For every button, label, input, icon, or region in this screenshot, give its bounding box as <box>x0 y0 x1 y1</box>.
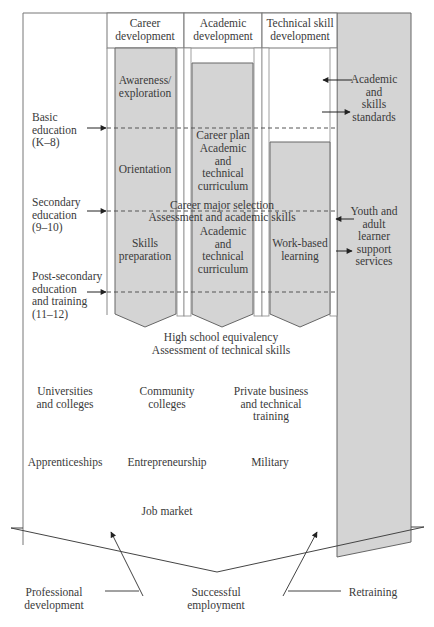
curr-b-line4: curriculum <box>198 263 248 276</box>
awareness-line1: Awareness/ <box>119 74 172 87</box>
curr-a-line3: technical <box>198 167 248 180</box>
successful-line2: employment <box>187 599 245 612</box>
retraining: Retraining <box>349 586 398 599</box>
universities-line1: Universities <box>36 385 93 398</box>
career-pathway-diagram: Career development Academic development … <box>0 0 434 627</box>
header-academic-line2: development <box>193 30 252 43</box>
header-academic: Academic development <box>193 17 252 43</box>
support-line1: Youth and <box>350 205 397 218</box>
header-technical-line1: Technical skill <box>266 17 333 30</box>
private-line1: Private business <box>234 385 308 398</box>
technical-column-arrow <box>270 142 330 327</box>
professional-line1: Professional <box>24 586 83 599</box>
academic-technical-curriculum-2: Academic and technical curriculum <box>198 225 248 275</box>
skills-line1: Skills <box>119 237 171 250</box>
skills-preparation: Skills preparation <box>119 237 171 262</box>
professional-development: Professional development <box>24 586 83 611</box>
stage-basic-education: Basic education (K–8) <box>32 111 77 149</box>
standards-line4: standards <box>351 111 398 124</box>
assessment-technical-text: Assessment of technical skills <box>152 344 290 357</box>
private-line2: and technical <box>234 398 308 411</box>
stage-secondary-line2: education <box>32 209 81 222</box>
stage-basic-line3: (K–8) <box>32 136 77 149</box>
header-career-line2: development <box>115 30 174 43</box>
support-line2: adult <box>350 218 397 231</box>
header-career: Career development <box>115 17 174 43</box>
header-technical-line2: development <box>266 30 333 43</box>
youth-adult-learner-support: Youth and adult learner support services <box>350 205 397 268</box>
career-major-selection: Career major selection <box>170 199 274 212</box>
arrow-professional-development <box>111 532 143 596</box>
stage-post-line4: (11–12) <box>32 308 102 321</box>
work-based-line2: learning <box>272 250 327 263</box>
community-colleges: Community colleges <box>140 385 195 410</box>
support-line3: learner <box>350 230 397 243</box>
private-line3: training <box>234 410 308 423</box>
career-plan: Career plan <box>196 129 249 142</box>
skills-line2: preparation <box>119 250 171 263</box>
curr-b-line2: and <box>198 238 248 251</box>
community-line1: Community <box>140 385 195 398</box>
stage-post-line2: education <box>32 283 102 296</box>
header-academic-line1: Academic <box>193 17 252 30</box>
assessment-academic-skills: Assessment and academic skills <box>148 211 295 224</box>
v-left-edge <box>11 528 217 572</box>
apprenticeships: Apprenticeships <box>28 456 103 469</box>
support-line4: support <box>350 243 397 256</box>
curr-a-line4: curriculum <box>198 180 248 193</box>
curr-b-line3: technical <box>198 250 248 263</box>
hs-equivalency-text: High school equivalency <box>152 331 290 344</box>
stage-post-line1: Post-secondary <box>32 270 102 283</box>
universities-line2: and colleges <box>36 398 93 411</box>
header-career-line1: Career <box>115 17 174 30</box>
successful-employment: Successful employment <box>187 586 245 611</box>
work-based-learning: Work-based learning <box>272 237 327 262</box>
entrepreneurship: Entrepreneurship <box>127 456 206 469</box>
work-based-line1: Work-based <box>272 237 327 250</box>
stage-basic-line1: Basic <box>32 111 77 124</box>
academic-skills-standards: Academic and skills standards <box>351 73 398 123</box>
stage-secondary-education: Secondary education (9–10) <box>32 196 81 234</box>
support-line5: services <box>350 255 397 268</box>
awareness-exploration: Awareness/ exploration <box>119 74 172 99</box>
arrow-retraining <box>283 532 317 596</box>
standards-line1: Academic <box>351 73 398 86</box>
standards-line2: and <box>351 86 398 99</box>
job-market: Job market <box>142 505 193 518</box>
orientation: Orientation <box>119 163 171 176</box>
high-school-equivalency: High school equivalency Assessment of te… <box>152 331 290 356</box>
stage-secondary-line3: (9–10) <box>32 221 81 234</box>
curr-a-line1: Academic <box>198 142 248 155</box>
v-right-edge <box>217 527 424 572</box>
stage-basic-line2: education <box>32 124 77 137</box>
universities-and-colleges: Universities and colleges <box>36 385 93 410</box>
professional-line2: development <box>24 599 83 612</box>
curr-a-line2: and <box>198 155 248 168</box>
academic-column-arrow <box>192 63 253 327</box>
standards-line3: skills <box>351 98 398 111</box>
academic-technical-curriculum-1: Academic and technical curriculum <box>198 142 248 192</box>
stage-post-line3: and training <box>32 295 102 308</box>
successful-line1: Successful <box>187 586 245 599</box>
stage-secondary-line1: Secondary <box>32 196 81 209</box>
curr-b-line1: Academic <box>198 225 248 238</box>
military: Military <box>251 456 289 469</box>
private-business-technical-training: Private business and technical training <box>234 385 308 423</box>
stage-postsecondary-education: Post-secondary education and training (1… <box>32 270 102 320</box>
awareness-line2: exploration <box>119 87 172 100</box>
community-line2: colleges <box>140 398 195 411</box>
header-technical: Technical skill development <box>266 17 333 43</box>
